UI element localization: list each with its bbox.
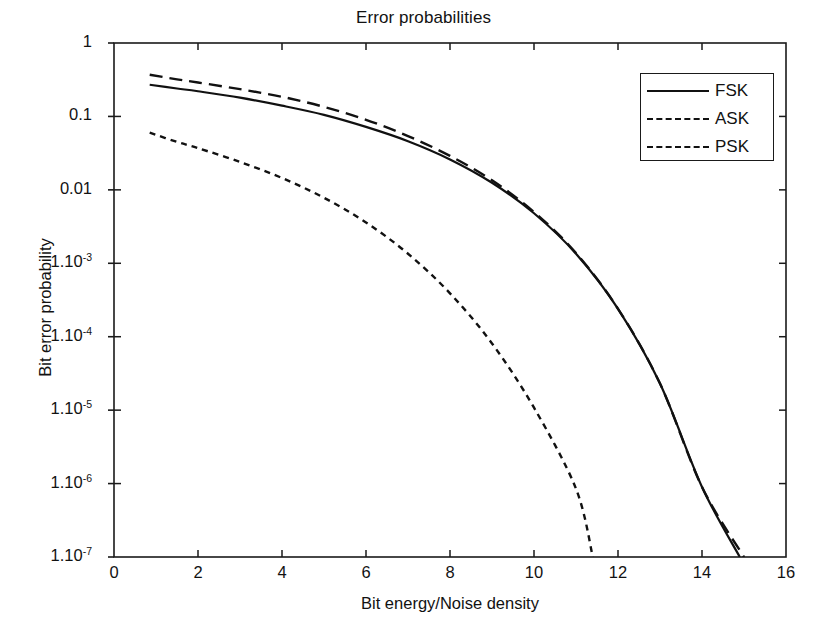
chart-legend: FSK ASK PSK: [640, 73, 774, 161]
legend-item-ask: ASK: [641, 104, 775, 133]
chart-title: Error probabilities: [0, 8, 819, 28]
legend-item-psk: PSK: [641, 132, 775, 161]
y-tick-label: 1.10-7: [0, 546, 92, 565]
x-tick-label: 16: [766, 563, 806, 582]
x-axis-title: Bit energy/Noise density: [114, 594, 786, 613]
legend-label-ask: ASK: [715, 109, 749, 129]
legend-line-psk-icon: [647, 137, 711, 157]
x-tick-label: 8: [430, 563, 470, 582]
y-tick-label: 1.10-5: [0, 399, 92, 418]
y-tick-label: 0.1: [0, 105, 92, 124]
x-tick-label: 10: [514, 563, 554, 582]
y-tick-label: 1.10-3: [0, 252, 92, 271]
legend-label-psk: PSK: [715, 137, 749, 157]
legend-line-ask-icon: [647, 109, 711, 129]
legend-line-fsk-icon: [647, 81, 711, 101]
x-tick-label: 12: [598, 563, 638, 582]
x-tick-label: 4: [262, 563, 302, 582]
y-tick-label: 0.01: [0, 179, 92, 198]
x-tick-label: 2: [178, 563, 218, 582]
x-tick-label: 14: [682, 563, 722, 582]
legend-item-fsk: FSK: [641, 76, 775, 105]
legend-label-fsk: FSK: [715, 81, 748, 101]
y-tick-label: 1.10-4: [0, 326, 92, 345]
y-tick-label: 1.10-6: [0, 473, 92, 492]
figure-container: Error probabilities Bit energy/Noise den…: [0, 0, 819, 634]
series-line-ask: [150, 133, 593, 557]
x-tick-label: 6: [346, 563, 386, 582]
figure-caption: [0, 622, 819, 634]
x-tick-label: 0: [94, 563, 134, 582]
y-tick-label: 1: [0, 32, 92, 51]
